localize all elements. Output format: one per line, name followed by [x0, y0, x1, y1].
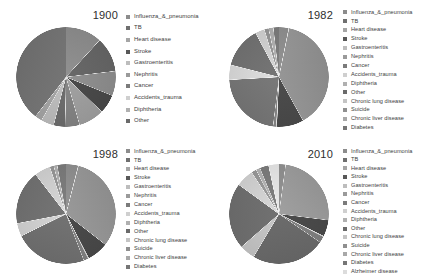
legend-swatch-icon: [343, 37, 347, 41]
legend-item[interactable]: Chronic lung disease: [126, 236, 215, 245]
legend-swatch-icon: [343, 158, 347, 162]
legend-label: TB: [351, 19, 358, 25]
legend-swatch-icon: [343, 10, 347, 14]
legend-swatch-icon: [343, 227, 347, 231]
panel-1982: 1982 Influenza_&_pneumoniaTBHeart diseas…: [215, 0, 434, 139]
panel-title-1982: 1982: [215, 9, 333, 22]
legend-label: Gastroenteritis: [134, 60, 173, 66]
legend-item[interactable]: Influenza_&_pneumonia: [126, 147, 215, 156]
legend-item[interactable]: Stroke: [126, 174, 215, 183]
legend-item[interactable]: Nephritis: [343, 52, 434, 61]
legend-item[interactable]: Cancer: [126, 200, 215, 209]
legend-item[interactable]: Other: [343, 88, 434, 97]
legend-item[interactable]: Chronic lung disease: [343, 233, 434, 242]
legend-swatch-icon: [343, 46, 347, 50]
legend-label: Chronic liver disease: [351, 116, 404, 122]
legend-item[interactable]: TB: [126, 23, 215, 35]
legend-item[interactable]: Nephritis: [126, 191, 215, 200]
legend-item[interactable]: Influenza_&_pneumonia: [126, 11, 215, 23]
legend-item[interactable]: Chronic lung disease: [343, 97, 434, 106]
legend-swatch-icon: [126, 149, 130, 153]
legend-label: TB: [134, 25, 142, 31]
panel-1900: 1900 Influenza_&_pneumoniaTBHeart diseas…: [0, 0, 215, 139]
legend-item[interactable]: Stroke: [343, 173, 434, 182]
legend-item[interactable]: Other: [343, 224, 434, 233]
legend-item[interactable]: Heart disease: [126, 34, 215, 46]
legend-item[interactable]: TB: [343, 156, 434, 165]
legend-item[interactable]: Stroke: [126, 46, 215, 58]
legend-item[interactable]: Gastroenteritis: [126, 57, 215, 69]
legend-item[interactable]: Nephritis: [126, 69, 215, 81]
legend-swatch-icon: [126, 119, 130, 123]
legend-label: Cancer: [134, 202, 152, 208]
legend-item[interactable]: TB: [126, 156, 215, 165]
legend-swatch-icon: [343, 126, 347, 130]
legend-item[interactable]: Accidents_trauma: [343, 207, 434, 216]
legend-label: Other: [134, 118, 149, 124]
legend-item[interactable]: Gastroenteritis: [343, 181, 434, 190]
legend-item[interactable]: Heart disease: [343, 26, 434, 35]
legend-item[interactable]: Diabetes: [343, 259, 434, 268]
legend-swatch-icon: [343, 184, 347, 188]
legend-item[interactable]: Diabetes: [126, 263, 215, 272]
legend-swatch-icon: [343, 235, 347, 239]
legend-item[interactable]: Suicide: [126, 245, 215, 254]
legend-item[interactable]: Stroke: [343, 35, 434, 44]
legend-item[interactable]: Accidents_trauma: [343, 70, 434, 79]
legend-label: Nephritis: [134, 193, 157, 199]
chart-column: 1982: [215, 0, 343, 139]
legend-item[interactable]: Accidents_trauma: [126, 92, 215, 104]
legend-item[interactable]: Diphtheria: [126, 218, 215, 227]
legend-swatch-icon: [126, 61, 130, 65]
legend-item[interactable]: Alzheimer disease: [343, 267, 434, 276]
legend-label: Stroke: [351, 174, 367, 180]
legend-item[interactable]: Diphtheria: [343, 79, 434, 88]
legend-label: Accidents_trauma: [351, 209, 397, 215]
legend-item[interactable]: Gastroenteritis: [126, 183, 215, 192]
legend-item[interactable]: Other: [126, 115, 215, 127]
legend-swatch-icon: [126, 26, 130, 30]
legend-item[interactable]: Diphtheria: [343, 216, 434, 225]
legend-item[interactable]: Gastroenteritis: [343, 44, 434, 53]
legend-item[interactable]: Cancer: [343, 199, 434, 208]
legend-label: Diphtheria: [351, 217, 377, 223]
legend-item[interactable]: Cancer: [343, 61, 434, 70]
legend-label: Stroke: [134, 175, 150, 181]
panel-title-2010: 2010: [215, 148, 333, 161]
legend-item[interactable]: Suicide: [343, 242, 434, 251]
panel-2010: 2010 Influenza_&_pneumoniaTBHeart diseas…: [215, 139, 434, 278]
legend-swatch-icon: [126, 185, 130, 189]
legend-item[interactable]: Diphtheria: [126, 104, 215, 116]
legend-item[interactable]: Chronic liver disease: [343, 250, 434, 259]
panel-1998: 1998 Influenza_&_pneumoniaTBHeart diseas…: [0, 139, 215, 278]
legend-item[interactable]: Chronic liver disease: [343, 115, 434, 124]
legend-item[interactable]: Other: [126, 227, 215, 236]
legend-item[interactable]: Cancer: [126, 81, 215, 93]
legend-item[interactable]: Heart disease: [126, 165, 215, 174]
pie-canvas: [229, 164, 329, 264]
legend-item[interactable]: TB: [343, 17, 434, 26]
legend-label: Accidents_trauma: [134, 211, 180, 217]
pie-wrap: [16, 164, 116, 264]
legend-label: Suicide: [351, 243, 370, 249]
legend-swatch-icon: [126, 221, 130, 225]
legend-item[interactable]: Suicide: [343, 106, 434, 115]
legend-item[interactable]: Nephritis: [343, 190, 434, 199]
legend-swatch-icon: [126, 167, 130, 171]
legend-label: Heart disease: [351, 166, 386, 172]
legend-item[interactable]: Influenza_&_pneumonia: [343, 147, 434, 156]
legend-label: Cancer: [134, 83, 153, 89]
legend-label: Other: [351, 90, 365, 96]
legend-swatch-icon: [343, 175, 347, 179]
legend-item[interactable]: Diabetes: [343, 124, 434, 133]
legend-item[interactable]: Influenza_&_pneumonia: [343, 8, 434, 17]
legend-label: Other: [134, 229, 148, 235]
legend-item[interactable]: Heart disease: [343, 164, 434, 173]
legend-item[interactable]: Chronic liver disease: [126, 254, 215, 263]
legend-swatch-icon: [126, 50, 130, 54]
legend-label: Nephritis: [351, 54, 374, 60]
legend-label: Alzheimer disease: [351, 269, 398, 275]
legend-item[interactable]: Accidents_trauma: [126, 209, 215, 218]
legend-swatch-icon: [343, 28, 347, 32]
legend-label: Suicide: [134, 246, 153, 252]
